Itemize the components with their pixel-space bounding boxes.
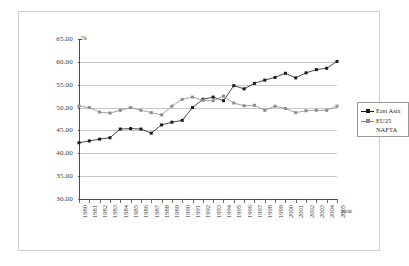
x-tick-label: 1991 <box>195 205 202 218</box>
series-marker <box>253 104 256 107</box>
series-marker <box>139 128 142 131</box>
x-tick <box>285 199 286 203</box>
y-tick-label: 55.00 <box>56 81 73 88</box>
figure-frame: % 30.0035.0040.0045.0050.0055.0060.0065.… <box>18 11 380 251</box>
series-layer <box>79 39 337 199</box>
series-marker <box>243 87 246 90</box>
series-marker <box>315 109 318 112</box>
x-tick <box>182 199 183 203</box>
y-tick-label: 40.00 <box>56 150 73 157</box>
series-marker <box>181 98 184 101</box>
x-tick-label: 1986 <box>143 205 150 218</box>
x-tick <box>120 199 121 203</box>
x-tick-label: 2000 <box>288 205 295 218</box>
x-tick <box>234 199 235 203</box>
x-tick <box>306 199 307 203</box>
series-marker <box>139 109 142 112</box>
x-tick <box>203 199 204 203</box>
x-tick <box>151 199 152 203</box>
x-tick-label: 1987 <box>154 205 161 218</box>
x-tick <box>316 199 317 203</box>
x-tick <box>254 199 255 203</box>
x-tick-label: 1998 <box>267 205 274 218</box>
legend-item-eu25: EU25 <box>361 116 406 126</box>
y-tick-label: 65.00 <box>56 36 73 43</box>
x-tick-label: 1982 <box>102 205 109 218</box>
y-tick-label: 50.00 <box>56 104 73 111</box>
series-marker <box>284 72 287 75</box>
series-marker <box>88 139 91 142</box>
x-tick-label: 1994 <box>226 205 233 218</box>
x-tick-label: 2003 <box>319 205 326 218</box>
y-tick-label: 45.00 <box>56 127 73 134</box>
series-marker <box>78 141 81 144</box>
series-marker <box>284 107 287 110</box>
series-marker <box>129 127 132 130</box>
x-tick-label: 1995 <box>236 205 243 218</box>
x-tick-label: 1999 <box>278 205 285 218</box>
series-marker <box>222 95 225 98</box>
y-tick-label: 60.00 <box>56 58 73 65</box>
series-marker <box>232 102 235 105</box>
x-tick-label: 1990 <box>185 205 192 218</box>
y-tick-label: 35.00 <box>56 173 73 180</box>
legend-item-east-asia: East Asia <box>361 106 406 116</box>
x-tick-label: 1996 <box>247 205 254 218</box>
x-tick-label: 1988 <box>164 205 171 218</box>
x-tick-label: 2004 <box>329 205 336 218</box>
series-marker <box>78 105 81 108</box>
series-marker <box>212 99 215 102</box>
series-marker <box>98 138 101 141</box>
x-tick-label: 1992 <box>205 205 212 218</box>
series-marker <box>232 84 235 87</box>
x-tick <box>327 199 328 203</box>
series-marker <box>263 79 266 82</box>
series-marker <box>108 112 111 115</box>
series-marker <box>305 71 308 74</box>
series-marker <box>294 76 297 79</box>
x-tick-label: 2001 <box>298 205 305 218</box>
x-tick <box>131 199 132 203</box>
series-marker <box>160 123 163 126</box>
x-axis-title: year <box>341 207 352 214</box>
series-marker <box>170 105 173 108</box>
x-tick-label: 1983 <box>112 205 119 218</box>
series-marker <box>119 109 122 112</box>
x-tick <box>89 199 90 203</box>
x-tick <box>100 199 101 203</box>
x-tick-label: 1981 <box>92 205 99 218</box>
series-marker <box>325 109 328 112</box>
x-tick <box>79 199 80 203</box>
y-tick-label: 30.00 <box>56 196 73 203</box>
x-tick-label: 1993 <box>216 205 223 218</box>
series-marker <box>98 111 101 114</box>
x-axis-line <box>79 199 337 200</box>
series-marker <box>263 109 266 112</box>
series-marker <box>294 111 297 114</box>
series-marker <box>243 104 246 107</box>
x-tick <box>213 199 214 203</box>
series-marker <box>336 105 339 108</box>
series-marker <box>191 106 194 109</box>
series-marker <box>88 106 91 109</box>
series-line <box>79 96 337 115</box>
x-tick-label: 1984 <box>123 205 130 218</box>
x-tick <box>223 199 224 203</box>
series-marker <box>274 76 277 79</box>
series-marker <box>150 111 153 114</box>
series-marker <box>119 128 122 131</box>
x-tick <box>172 199 173 203</box>
series-line <box>79 61 337 142</box>
series-marker <box>181 119 184 122</box>
x-tick <box>141 199 142 203</box>
series-marker <box>325 67 328 70</box>
series-marker <box>222 99 225 102</box>
legend-marker-eu25 <box>361 117 374 125</box>
series-marker <box>201 99 204 102</box>
series-marker <box>212 96 215 99</box>
legend-label-east-asia: East Asia <box>376 107 400 115</box>
series-marker <box>305 109 308 112</box>
series-marker <box>129 106 132 109</box>
series-marker <box>274 105 277 108</box>
